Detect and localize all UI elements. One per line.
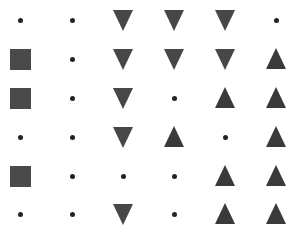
square-icon — [10, 88, 31, 109]
triangle-down-icon — [215, 49, 235, 70]
dot-icon — [18, 135, 23, 140]
triangle-up-icon — [164, 126, 184, 147]
dot-icon — [172, 212, 177, 217]
triangle-up-icon — [215, 87, 235, 108]
triangle-down-icon — [113, 88, 133, 109]
dot-icon — [223, 135, 228, 140]
triangle-down-icon — [113, 10, 133, 31]
dot-icon — [172, 96, 177, 101]
shape-grid — [0, 0, 302, 233]
triangle-down-icon — [215, 10, 235, 31]
dot-icon — [121, 174, 126, 179]
dot-icon — [18, 212, 23, 217]
dot-icon — [70, 135, 75, 140]
dot-icon — [70, 174, 75, 179]
triangle-down-icon — [113, 127, 133, 148]
dot-icon — [172, 174, 177, 179]
dot-icon — [70, 96, 75, 101]
triangle-up-icon — [215, 203, 235, 224]
dot-icon — [274, 18, 279, 23]
dot-icon — [18, 18, 23, 23]
triangle-up-icon — [266, 126, 286, 147]
dot-icon — [70, 212, 75, 217]
dot-icon — [70, 18, 75, 23]
triangle-up-icon — [266, 165, 286, 186]
triangle-down-icon — [113, 49, 133, 70]
dot-icon — [70, 57, 75, 62]
square-icon — [10, 166, 31, 187]
triangle-up-icon — [215, 165, 235, 186]
triangle-up-icon — [266, 203, 286, 224]
triangle-down-icon — [164, 49, 184, 70]
square-icon — [10, 49, 31, 70]
triangle-down-icon — [164, 10, 184, 31]
triangle-up-icon — [266, 87, 286, 108]
triangle-down-icon — [113, 204, 133, 225]
triangle-up-icon — [266, 48, 286, 69]
